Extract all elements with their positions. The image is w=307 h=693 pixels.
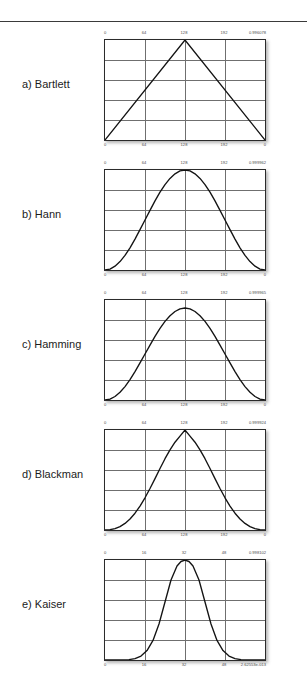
curve-hann bbox=[105, 170, 265, 270]
panel-label-kaiser: e) Kaiser bbox=[22, 598, 112, 611]
top-tick-192: 192 bbox=[221, 30, 228, 36]
peak-value-label-hamming: 0.999965 bbox=[249, 290, 266, 296]
bottom-tick-192: 192 bbox=[221, 272, 228, 278]
bottom-right-value-bartlett: 0 bbox=[264, 142, 266, 148]
top-tick-row-hann: 0 64 128 192 0.999962 bbox=[104, 160, 266, 169]
top-tick-32: 32 bbox=[182, 550, 187, 556]
curve-kaiser bbox=[105, 560, 265, 660]
peak-value-label-blackman: 0.999924 bbox=[249, 420, 266, 426]
bottom-tick-192: 192 bbox=[221, 402, 228, 408]
plot-wrap-blackman: 0 64 128 192 0.999924 0 64 128 192 0 bbox=[104, 420, 266, 541]
plot-box-bartlett bbox=[104, 39, 266, 141]
bottom-tick-128: 128 bbox=[181, 142, 188, 148]
top-tick-192: 192 bbox=[221, 290, 228, 296]
top-tick-64: 64 bbox=[142, 30, 147, 36]
bottom-tick-48: 48 bbox=[222, 662, 227, 668]
peak-value-label-bartlett: 0.996078 bbox=[249, 30, 266, 36]
plot-wrap-bartlett: 0 64 128 192 0.996078 0 64 128 192 0 bbox=[104, 30, 266, 151]
curve-bartlett bbox=[105, 40, 265, 140]
top-tick-row-kaiser: 0 16 32 48 0.998102 bbox=[104, 550, 266, 559]
plot-box-blackman bbox=[104, 429, 266, 531]
bottom-tick-64: 64 bbox=[142, 272, 147, 278]
top-tick-row-blackman: 0 64 128 192 0.999924 bbox=[104, 420, 266, 429]
peak-value-label-hann: 0.999962 bbox=[249, 160, 266, 166]
top-tick-48: 48 bbox=[222, 550, 227, 556]
curve-hamming bbox=[105, 300, 265, 400]
top-tick-0: 0 bbox=[104, 550, 106, 556]
bottom-tick-0: 0 bbox=[104, 272, 106, 278]
bottom-tick-0: 0 bbox=[104, 402, 106, 408]
bottom-right-value-hann: 0 bbox=[264, 272, 266, 278]
plot-box-hamming bbox=[104, 299, 266, 401]
top-tick-192: 192 bbox=[221, 420, 228, 426]
bottom-tick-64: 64 bbox=[142, 142, 147, 148]
bottom-tick-0: 0 bbox=[104, 532, 106, 538]
top-tick-0: 0 bbox=[104, 290, 106, 296]
top-tick-16: 16 bbox=[142, 550, 147, 556]
header-divider-rule bbox=[0, 21, 307, 22]
top-tick-0: 0 bbox=[104, 30, 106, 36]
panel-label-hamming: c) Hamming bbox=[22, 338, 112, 351]
plot-box-kaiser bbox=[104, 559, 266, 661]
top-tick-128: 128 bbox=[181, 30, 188, 36]
bottom-tick-64: 64 bbox=[142, 532, 147, 538]
bottom-tick-32: 32 bbox=[182, 662, 187, 668]
bottom-right-value-blackman: 0 bbox=[264, 532, 266, 538]
plot-box-hann bbox=[104, 169, 266, 271]
top-tick-128: 128 bbox=[181, 160, 188, 166]
bottom-tick-row-hamming: 0 64 128 192 0 bbox=[104, 402, 266, 411]
top-tick-0: 0 bbox=[104, 160, 106, 166]
top-tick-0: 0 bbox=[104, 420, 106, 426]
curve-blackman bbox=[105, 430, 265, 530]
bottom-tick-row-bartlett: 0 64 128 192 0 bbox=[104, 142, 266, 151]
bottom-tick-0: 0 bbox=[104, 142, 106, 148]
bottom-right-value-kaiser: 2.62553e-013 bbox=[241, 662, 266, 668]
top-tick-64: 64 bbox=[142, 290, 147, 296]
bottom-tick-192: 192 bbox=[221, 532, 228, 538]
bottom-tick-row-kaiser: 0 16 32 48 2.62553e-013 bbox=[104, 662, 266, 671]
top-tick-row-hamming: 0 64 128 192 0.999965 bbox=[104, 290, 266, 299]
bottom-right-value-hamming: 0 bbox=[264, 402, 266, 408]
bottom-tick-192: 192 bbox=[221, 142, 228, 148]
top-tick-64: 64 bbox=[142, 420, 147, 426]
bottom-tick-row-hann: 0 64 128 192 0 bbox=[104, 272, 266, 281]
top-tick-128: 128 bbox=[181, 420, 188, 426]
top-tick-row-bartlett: 0 64 128 192 0.996078 bbox=[104, 30, 266, 39]
panel-label-bartlett: a) Bartlett bbox=[22, 78, 112, 91]
plot-wrap-kaiser: 0 16 32 48 0.998102 0 16 32 48 2.62553e-… bbox=[104, 550, 266, 671]
top-tick-128: 128 bbox=[181, 290, 188, 296]
bottom-tick-128: 128 bbox=[181, 272, 188, 278]
bottom-tick-16: 16 bbox=[142, 662, 147, 668]
bottom-tick-64: 64 bbox=[142, 402, 147, 408]
peak-value-label-kaiser: 0.998102 bbox=[249, 550, 266, 556]
panel-label-hann: b) Hann bbox=[22, 208, 112, 221]
bottom-tick-row-blackman: 0 64 128 192 0 bbox=[104, 532, 266, 541]
bottom-tick-128: 128 bbox=[181, 532, 188, 538]
top-tick-64: 64 bbox=[142, 160, 147, 166]
bottom-tick-128: 128 bbox=[181, 402, 188, 408]
panel-label-blackman: d) Blackman bbox=[22, 468, 112, 481]
plot-wrap-hann: 0 64 128 192 0.999962 0 64 128 192 0 bbox=[104, 160, 266, 281]
plot-wrap-hamming: 0 64 128 192 0.999965 0 64 128 192 0 bbox=[104, 290, 266, 411]
bottom-tick-0: 0 bbox=[104, 662, 106, 668]
top-tick-192: 192 bbox=[221, 160, 228, 166]
